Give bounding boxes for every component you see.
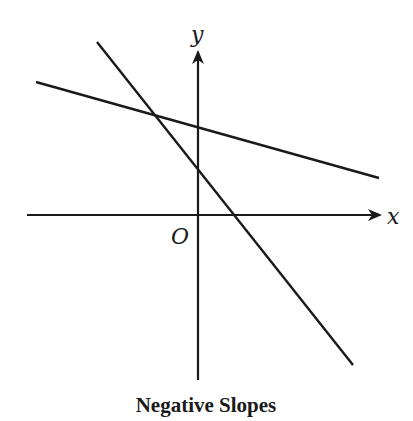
- x-axis-label: x: [387, 204, 400, 229]
- origin-label: O: [171, 224, 189, 249]
- steep-negative-slope-line: [97, 42, 353, 365]
- figure-caption: Negative Slopes: [136, 393, 277, 417]
- shallow-negative-slope-line: [36, 82, 379, 178]
- negative-slopes-diagram: y x O Negative Slopes: [0, 0, 413, 421]
- y-axis-label: y: [190, 22, 204, 47]
